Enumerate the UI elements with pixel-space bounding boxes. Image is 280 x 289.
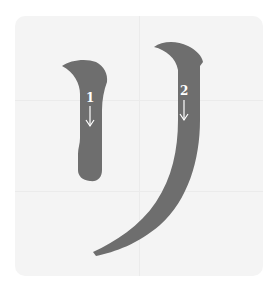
character-strokes	[0, 0, 280, 289]
stroke-2	[93, 42, 203, 256]
stroke-1-number: 1	[86, 92, 94, 104]
stroke-1	[62, 60, 107, 181]
stroke-2-number: 2	[180, 85, 188, 97]
